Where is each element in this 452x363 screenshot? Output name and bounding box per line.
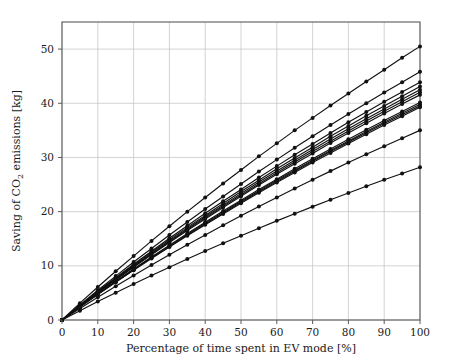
data-point-marker	[400, 80, 404, 84]
data-point-marker	[382, 100, 386, 104]
data-point-marker	[346, 120, 350, 124]
data-point-marker	[221, 194, 225, 198]
data-point-marker	[382, 123, 386, 127]
data-point-marker	[239, 201, 243, 205]
data-point-marker	[364, 101, 368, 105]
data-point-marker	[257, 226, 261, 230]
y-tick-label: 10	[41, 259, 54, 271]
data-point-marker	[293, 170, 297, 174]
x-tick-label: 80	[342, 326, 355, 338]
data-point-marker	[150, 273, 154, 277]
data-point-marker	[275, 195, 279, 199]
data-point-marker	[329, 123, 333, 127]
x-tick-label: 20	[127, 326, 140, 338]
data-point-marker	[257, 183, 261, 187]
data-point-marker	[293, 146, 297, 150]
data-point-marker	[364, 80, 368, 84]
data-point-marker	[346, 141, 350, 145]
data-point-marker	[132, 282, 136, 286]
data-point-marker	[132, 254, 136, 258]
data-point-marker	[167, 265, 171, 269]
data-point-marker	[311, 161, 315, 165]
data-point-marker	[364, 184, 368, 188]
data-point-marker	[382, 90, 386, 94]
data-point-marker	[221, 206, 225, 210]
data-point-marker	[418, 165, 422, 169]
data-point-marker	[150, 257, 154, 261]
data-point-marker	[400, 56, 404, 60]
data-point-marker	[293, 186, 297, 190]
data-point-marker	[96, 300, 100, 304]
data-point-marker	[275, 172, 279, 176]
data-point-marker	[221, 212, 225, 216]
data-point-marker	[203, 249, 207, 253]
data-point-marker	[114, 280, 118, 284]
data-point-marker	[185, 257, 189, 261]
data-point-marker	[167, 224, 171, 228]
data-point-marker	[382, 112, 386, 116]
data-point-marker	[418, 105, 422, 109]
data-point-marker	[185, 210, 189, 214]
x-tick-label: 40	[199, 326, 212, 338]
x-tick-label: 10	[91, 326, 104, 338]
data-point-marker	[400, 171, 404, 175]
data-point-marker	[239, 194, 243, 198]
data-point-marker	[185, 234, 189, 238]
data-point-marker	[346, 92, 350, 96]
data-point-marker	[311, 134, 315, 138]
data-point-marker	[221, 241, 225, 245]
data-point-marker	[364, 132, 368, 136]
data-point-marker	[364, 121, 368, 125]
data-point-marker	[329, 198, 333, 202]
data-point-marker	[346, 131, 350, 135]
chart-svg: 0102030405060708090100 01020304050 Perce…	[0, 0, 452, 363]
data-point-marker	[275, 180, 279, 184]
y-tick-label: 20	[41, 205, 54, 217]
data-point-marker	[185, 220, 189, 224]
x-tick-label: 90	[378, 326, 391, 338]
data-point-marker	[418, 80, 422, 84]
data-point-marker	[400, 136, 404, 140]
y-tick-label: 30	[41, 151, 54, 163]
co2-saving-line-chart: 0102030405060708090100 01020304050 Perce…	[0, 0, 452, 363]
x-tick-label: 70	[306, 326, 319, 338]
data-point-marker	[239, 182, 243, 186]
x-tick-label: 50	[234, 326, 247, 338]
data-point-marker	[96, 295, 100, 299]
data-point-marker	[293, 212, 297, 216]
data-point-marker	[167, 253, 171, 257]
data-point-marker	[275, 219, 279, 223]
data-point-marker	[311, 116, 315, 120]
data-point-marker	[364, 152, 368, 156]
x-tick-label: 60	[270, 326, 283, 338]
data-point-marker	[132, 268, 136, 272]
data-point-marker	[400, 90, 404, 94]
data-point-marker	[257, 170, 261, 174]
data-point-marker	[329, 103, 333, 107]
y-axis-label: Saving of CO2 emissions [kg]	[10, 90, 25, 252]
y-tick-label: 40	[41, 97, 54, 109]
data-point-marker	[150, 239, 154, 243]
data-point-marker	[221, 223, 225, 227]
data-point-marker	[346, 191, 350, 195]
data-point-marker	[293, 162, 297, 166]
data-point-marker	[418, 93, 422, 97]
data-point-marker	[418, 70, 422, 74]
y-tick-label: 50	[41, 43, 54, 55]
data-point-marker	[132, 274, 136, 278]
data-point-marker	[382, 68, 386, 72]
x-axis-label: Percentage of time spent in EV mode [%]	[126, 342, 356, 355]
data-point-marker	[114, 291, 118, 295]
data-point-marker	[329, 169, 333, 173]
data-point-marker	[167, 245, 171, 249]
data-point-marker	[382, 144, 386, 148]
data-point-marker	[418, 44, 422, 48]
data-point-marker	[311, 151, 315, 155]
data-point-marker	[203, 196, 207, 200]
data-point-marker	[346, 112, 350, 116]
data-point-marker	[400, 102, 404, 106]
data-point-marker	[275, 158, 279, 162]
data-point-marker	[311, 178, 315, 182]
data-point-marker	[239, 214, 243, 218]
data-point-marker	[114, 284, 118, 288]
